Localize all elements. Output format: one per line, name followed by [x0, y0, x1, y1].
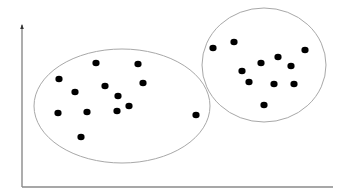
- axes: [20, 24, 333, 187]
- cluster-diagram: [0, 0, 348, 196]
- data-point-right: [290, 81, 297, 87]
- cluster-boundaries: [34, 8, 326, 163]
- data-point-right: [274, 54, 281, 60]
- data-point-right: [230, 39, 237, 45]
- data-point-left: [54, 110, 61, 116]
- data-point-right: [209, 45, 216, 51]
- data-point-left: [92, 60, 99, 66]
- data-point-right: [257, 60, 264, 66]
- data-point-right: [238, 68, 245, 74]
- data-point-left: [113, 108, 120, 114]
- data-point-right: [245, 79, 252, 85]
- diagram-canvas: [0, 0, 348, 196]
- y-axis-arrowhead-icon: [20, 24, 24, 29]
- data-point-left: [77, 134, 84, 140]
- data-point-left: [101, 83, 108, 89]
- data-point-left: [192, 112, 199, 118]
- data-point-right: [287, 63, 294, 69]
- data-point-right: [260, 102, 267, 108]
- data-point-left: [134, 61, 141, 67]
- data-points: [54, 39, 308, 140]
- data-point-right: [270, 81, 277, 87]
- left-cluster-ellipse: [34, 49, 210, 163]
- data-point-right: [301, 47, 308, 53]
- data-point-left: [139, 80, 146, 86]
- data-point-left: [83, 109, 90, 115]
- data-point-left: [71, 89, 78, 95]
- data-point-left: [125, 103, 132, 109]
- data-point-left: [114, 93, 121, 99]
- data-point-left: [55, 76, 62, 82]
